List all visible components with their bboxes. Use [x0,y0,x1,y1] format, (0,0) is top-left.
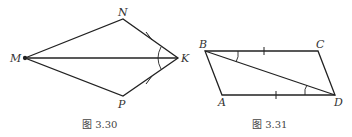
label-d: D [333,96,343,109]
label-b: B [198,38,207,51]
figure-3-31 [205,47,335,99]
point-m [24,57,27,60]
angle-arc-b [236,51,238,62]
label-c: C [316,38,325,51]
figure-3-30 [24,19,179,96]
angle-arc-d [305,85,307,95]
geometry-figures: M N K P 图 3.30 B C D A 图 3.31 [0,0,352,137]
label-m: M [9,52,22,65]
diagonal-bd [205,51,335,95]
caption-3-31: 图 3.31 [252,119,287,130]
label-a: A [217,96,226,109]
label-k: K [180,52,190,65]
label-p: P [117,98,126,111]
label-n: N [117,6,128,19]
caption-3-30: 图 3.30 [82,119,117,130]
